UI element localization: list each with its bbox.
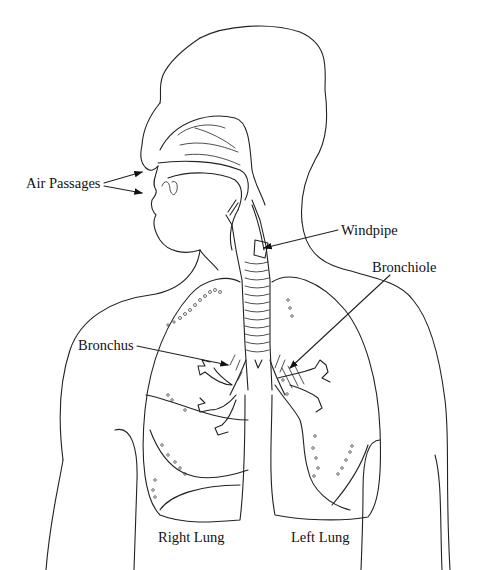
label-bronchus: Bronchus xyxy=(78,338,134,353)
label-windpipe: Windpipe xyxy=(341,223,398,238)
bronchus-arrow xyxy=(137,346,228,365)
label-bronchiole: Bronchiole xyxy=(372,260,436,275)
air-passages-arrow-upper xyxy=(104,172,142,183)
label-right-lung: Right Lung xyxy=(158,530,224,545)
label-left-lung: Left Lung xyxy=(291,530,349,545)
label-air-passages: Air Passages xyxy=(26,176,101,191)
body-outline xyxy=(46,26,450,570)
nasal-oral-cavity xyxy=(158,116,265,250)
left-lung xyxy=(271,277,381,520)
windpipe-arrow xyxy=(264,230,338,248)
right-lung xyxy=(143,278,248,522)
respiratory-diagram xyxy=(0,0,482,570)
bronchiole-arrow xyxy=(290,275,390,368)
air-passages-arrow-lower xyxy=(104,186,142,193)
